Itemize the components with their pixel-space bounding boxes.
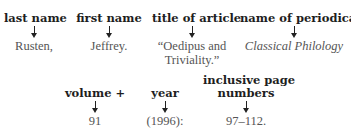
citation-part-title-of-article: title of article “Oedipus and Triviality… — [152, 12, 232, 67]
down-arrow-icon — [242, 100, 251, 114]
citation-part-first-name: first name Jeffrey. — [76, 12, 142, 53]
down-arrow-icon — [290, 25, 299, 39]
label-last-name: last name — [4, 12, 64, 25]
citation-part-year: year (1996): — [135, 87, 195, 128]
value-first-name: Jeffrey. — [76, 39, 142, 53]
citation-part-volume: volume + 91 — [60, 87, 130, 128]
value-title-line-2: Triviality.” — [152, 53, 232, 67]
down-arrow-icon — [30, 25, 39, 39]
label-title-of-article: title of article — [152, 12, 232, 25]
label-volume: volume + — [60, 87, 130, 100]
down-arrow-icon — [188, 25, 197, 39]
value-volume: 91 — [60, 114, 130, 128]
value-periodical: Classical Philology — [240, 39, 348, 53]
down-arrow-icon — [161, 100, 170, 114]
label-page-numbers-line-2: numbers — [203, 87, 289, 100]
value-year: (1996): — [135, 114, 195, 128]
down-arrow-icon — [105, 25, 114, 39]
down-arrow-icon — [91, 100, 100, 114]
value-page-numbers: 97–112. — [203, 114, 289, 128]
citation-part-name-of-periodical: name of periodical Classical Philology — [240, 12, 348, 53]
value-title-line-1: “Oedipus and — [152, 39, 232, 53]
label-name-of-periodical: name of periodical — [240, 12, 348, 25]
label-first-name: first name — [76, 12, 142, 25]
citation-part-page-numbers: inclusive page numbers 97–112. — [203, 74, 289, 128]
citation-part-last-name: last name Rusten, — [4, 12, 64, 53]
label-year: year — [135, 87, 195, 100]
value-last-name: Rusten, — [4, 39, 64, 53]
